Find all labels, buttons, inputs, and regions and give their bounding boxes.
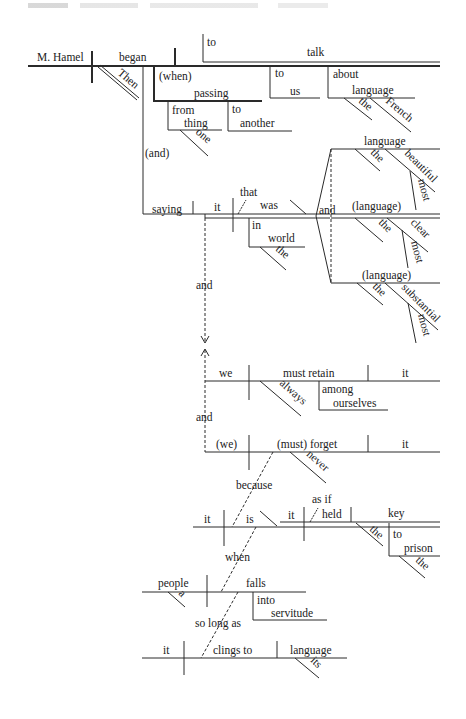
svg-text:to: to xyxy=(393,528,402,540)
verb-word: began xyxy=(119,51,147,64)
svg-text:language: language xyxy=(352,84,394,97)
svg-text:servitude: servitude xyxy=(271,607,313,619)
svg-text:clings to: clings to xyxy=(213,644,253,657)
svg-text:it: it xyxy=(402,438,409,450)
svg-text:into: into xyxy=(257,594,275,606)
svg-text:about: about xyxy=(333,68,359,80)
svg-text:to: to xyxy=(207,36,216,48)
svg-text:in: in xyxy=(252,219,261,231)
svg-text:the: the xyxy=(274,242,292,260)
svg-text:never: never xyxy=(305,448,332,474)
svg-text:most: most xyxy=(409,239,427,264)
svg-text:so long as: so long as xyxy=(195,617,242,630)
svg-text:saying: saying xyxy=(152,203,182,216)
svg-text:language: language xyxy=(290,644,332,657)
svg-text:prison: prison xyxy=(404,542,433,555)
svg-text:ourselves: ourselves xyxy=(333,397,377,409)
subject-word: M. Hamel xyxy=(37,51,84,63)
svg-text:(when): (when) xyxy=(159,70,192,83)
svg-text:talk: talk xyxy=(307,46,324,58)
svg-text:it: it xyxy=(163,644,170,656)
svg-text:from: from xyxy=(172,104,194,116)
svg-text:because: because xyxy=(236,479,272,491)
svg-text:us: us xyxy=(290,85,301,97)
adverb-then: Then xyxy=(116,66,142,91)
svg-text:(and): (and) xyxy=(145,147,169,160)
svg-text:the: the xyxy=(377,216,395,234)
svg-text:French: French xyxy=(384,94,416,124)
svg-text:is: is xyxy=(246,513,254,525)
svg-text:passing: passing xyxy=(194,87,229,100)
svg-text:to: to xyxy=(275,67,284,79)
svg-text:it: it xyxy=(214,201,221,213)
svg-text:when: when xyxy=(225,551,250,563)
svg-text:must retain: must retain xyxy=(283,367,335,379)
sentence-diagram: M. Hamel began Then to talk to us about … xyxy=(0,0,466,719)
svg-text:the: the xyxy=(368,523,386,541)
svg-text:its: its xyxy=(309,654,326,671)
svg-text:(language): (language) xyxy=(352,200,401,213)
svg-text:language: language xyxy=(364,135,406,148)
svg-text:(must) forget: (must) forget xyxy=(277,438,338,451)
svg-text:we: we xyxy=(219,367,232,379)
svg-text:(we): (we) xyxy=(216,438,237,451)
svg-text:was: was xyxy=(260,199,278,211)
svg-text:and: and xyxy=(196,279,213,291)
svg-text:among: among xyxy=(322,383,354,396)
svg-text:another: another xyxy=(240,117,275,129)
svg-text:held: held xyxy=(322,508,342,520)
svg-text:it: it xyxy=(204,513,211,525)
svg-text:that: that xyxy=(240,186,258,198)
svg-text:clear: clear xyxy=(409,216,433,240)
svg-text:key: key xyxy=(388,507,405,520)
svg-text:to: to xyxy=(232,103,241,115)
svg-text:it: it xyxy=(288,509,295,521)
svg-text:falls: falls xyxy=(246,577,266,589)
svg-text:(language): (language) xyxy=(362,269,411,282)
svg-text:it: it xyxy=(402,367,409,379)
svg-text:as if: as if xyxy=(312,493,332,505)
svg-text:and: and xyxy=(196,411,213,423)
